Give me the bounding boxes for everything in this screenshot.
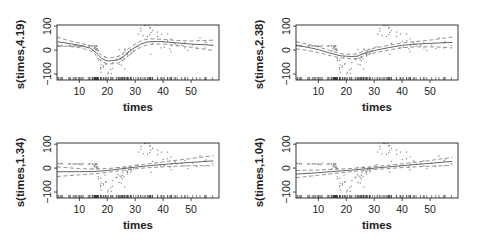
x-axis: 1020304050	[313, 198, 437, 215]
fit-line	[296, 43, 452, 57]
y-axis: −1000100	[280, 17, 296, 86]
x-axis-label: times	[123, 101, 153, 113]
x-tick-label: 20	[101, 85, 113, 97]
y-axis-label: s(times,1.34)	[14, 137, 26, 207]
y-tick-label: 100	[41, 17, 53, 35]
panel-s-times-4-19: 1020304050times−1000100s(times,4.19)	[0, 0, 240, 121]
panel-s-times-1-04: 1020304050times−1000100s(times,1.04)	[239, 118, 479, 239]
x-axis: 1020304050	[74, 80, 198, 97]
x-axis: 1020304050	[313, 80, 437, 97]
x-tick-label: 20	[340, 203, 352, 215]
x-tick-label: 30	[368, 203, 380, 215]
x-tick-label: 50	[185, 85, 197, 97]
x-tick-label: 10	[313, 85, 325, 97]
y-axis-label: s(times,1.04)	[253, 137, 265, 207]
y-tick-label: 0	[41, 47, 53, 53]
x-tick-label: 30	[129, 203, 141, 215]
panel-s-times-1-34: 1020304050times−1000100s(times,1.34)	[0, 118, 240, 239]
plot-svg: 1020304050times−1000100s(times,1.04)	[239, 118, 479, 239]
plot-frame	[57, 143, 219, 198]
x-tick-label: 40	[157, 85, 169, 97]
plot-frame	[296, 25, 458, 80]
x-tick-label: 30	[368, 85, 380, 97]
y-tick-label: −100	[41, 180, 53, 204]
x-tick-label: 50	[424, 85, 436, 97]
x-tick-label: 50	[424, 203, 436, 215]
x-axis-label: times	[362, 101, 392, 113]
x-tick-label: 20	[340, 85, 352, 97]
x-tick-label: 10	[74, 203, 86, 215]
plot-svg: 1020304050times−1000100s(times,2.38)	[239, 0, 479, 121]
x-tick-label: 40	[396, 85, 408, 97]
y-tick-label: −100	[280, 62, 292, 86]
x-axis-label: times	[362, 219, 392, 231]
y-tick-label: 100	[280, 135, 292, 153]
y-axis: −1000100	[41, 17, 57, 86]
y-tick-label: 0	[41, 165, 53, 171]
x-axis-label: times	[123, 219, 153, 231]
y-axis: −1000100	[41, 135, 57, 204]
x-tick-label: 40	[396, 203, 408, 215]
figure: 1020304050times−1000100s(times,4.19) 102…	[0, 0, 479, 242]
x-tick-label: 20	[101, 203, 113, 215]
y-axis-label: s(times,4.19)	[14, 19, 26, 89]
plot-frame	[296, 143, 458, 198]
x-tick-label: 10	[74, 85, 86, 97]
x-tick-label: 40	[157, 203, 169, 215]
y-tick-label: −100	[280, 180, 292, 204]
residual-points	[58, 25, 213, 75]
plot-frame	[57, 25, 219, 80]
y-tick-label: 100	[41, 135, 53, 153]
y-tick-label: 0	[280, 47, 292, 53]
panel-s-times-2-38: 1020304050times−1000100s(times,2.38)	[239, 0, 479, 121]
residual-points	[58, 143, 213, 193]
y-axis: −1000100	[280, 135, 296, 204]
x-tick-label: 50	[185, 203, 197, 215]
y-tick-label: 100	[280, 17, 292, 35]
y-axis-label: s(times,2.38)	[253, 19, 265, 89]
y-tick-label: −100	[41, 62, 53, 86]
x-tick-label: 10	[313, 203, 325, 215]
x-axis: 1020304050	[74, 198, 198, 215]
fit-line	[57, 161, 213, 172]
fit-line	[296, 161, 452, 174]
x-tick-label: 30	[129, 85, 141, 97]
plot-svg: 1020304050times−1000100s(times,1.34)	[0, 118, 240, 239]
y-tick-label: 0	[280, 165, 292, 171]
plot-svg: 1020304050times−1000100s(times,4.19)	[0, 0, 240, 121]
